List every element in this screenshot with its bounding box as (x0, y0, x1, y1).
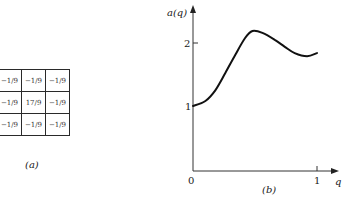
panel-b-caption: (b) (262, 184, 276, 195)
origin-label: 0 (188, 175, 194, 186)
x-axis-label: q (335, 176, 341, 187)
y-tick-label-2: 2 (184, 38, 190, 49)
panel-b-chart: a(q) 2 1 0 1 q (b) (0, 0, 349, 197)
x-tick-label-1: 1 (314, 175, 320, 186)
x-axis-arrow-icon (331, 168, 339, 174)
y-axis-arrow-icon (190, 5, 196, 13)
a-of-q-curve (193, 31, 317, 106)
y-tick-label-1: 1 (185, 101, 191, 112)
y-axis-label: a(q) (167, 7, 187, 18)
